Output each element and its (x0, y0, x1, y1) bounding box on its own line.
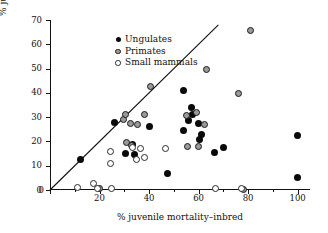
data-point (203, 66, 210, 73)
data-point (111, 119, 118, 126)
y-tick-label: 40 (16, 88, 42, 97)
chart-legend: Ungulates Primates Small mammals (112, 34, 198, 69)
data-point (162, 145, 169, 152)
data-point (235, 90, 242, 97)
data-point (108, 185, 115, 192)
scatter-plot-figure: % juvenile mortality–outbred 01020304050… (0, 0, 328, 233)
x-tick-label: 60 (184, 194, 214, 203)
x-tick-label: 20 (85, 194, 115, 203)
primates-marker-icon (112, 49, 124, 55)
x-tick (50, 190, 51, 194)
x-tick-minor (174, 190, 175, 192)
legend-label: Small mammals (124, 57, 198, 69)
ungulates-marker-icon (112, 37, 124, 42)
data-point (141, 111, 148, 118)
data-point (220, 144, 227, 151)
data-point (211, 149, 218, 156)
data-point (107, 148, 114, 155)
x-tick-label: 40 (134, 194, 164, 203)
y-tick (46, 166, 50, 167)
y-tick-label: 50 (16, 64, 42, 73)
y-tick (46, 117, 50, 118)
small-mammals-marker-icon (112, 60, 124, 66)
data-point (164, 170, 171, 177)
y-tick-label: 60 (16, 40, 42, 49)
y-tick (46, 44, 50, 45)
x-tick-minor (223, 190, 224, 192)
x-tick-minor (273, 190, 274, 192)
legend-item-ungulates: Ungulates (112, 34, 198, 46)
y-tick-label: 10 (16, 161, 42, 170)
y-tick-label: 20 (16, 137, 42, 146)
y-tick-label: 70 (16, 16, 42, 25)
y-axis-title: % juvenile mortality–outbred (0, 0, 8, 16)
data-point (127, 120, 134, 127)
data-point (193, 109, 200, 116)
data-point (94, 185, 101, 192)
legend-label: Primates (124, 46, 166, 58)
y-tick (46, 20, 50, 21)
origin-label: 0 (26, 186, 44, 195)
data-point (184, 143, 191, 150)
legend-label: Ungulates (124, 34, 172, 46)
data-point (198, 131, 205, 138)
y-tick (46, 141, 50, 142)
y-tick-label: 30 (16, 113, 42, 122)
y-tick (46, 69, 50, 70)
legend-item-primates: Primates (112, 46, 198, 58)
data-point (212, 185, 219, 192)
x-axis-title: % juvenile mortality–inbred (50, 212, 310, 222)
legend-item-small-mammals: Small mammals (112, 57, 198, 69)
data-point (74, 184, 81, 191)
y-tick (46, 93, 50, 94)
plot-area: 010203040506070204060801000 % juvenile m… (50, 20, 310, 190)
x-tick-label: 100 (283, 194, 313, 203)
x-tick-label: 80 (233, 194, 263, 203)
data-point (146, 123, 153, 130)
x-tick-minor (124, 190, 125, 192)
